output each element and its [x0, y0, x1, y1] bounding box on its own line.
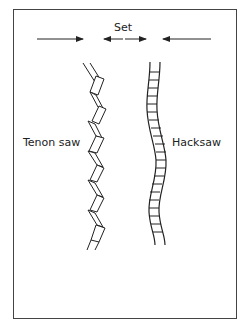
tenon-saw-teeth [83, 63, 106, 250]
set-label: Set [114, 21, 132, 34]
tenon-saw-label: Tenon saw [23, 136, 80, 149]
saw-set-diagram [0, 0, 250, 324]
hacksaw-wavy-band [147, 62, 166, 245]
hacksaw-teeth-rungs [147, 72, 166, 232]
hacksaw-label: Hacksaw [172, 136, 221, 149]
